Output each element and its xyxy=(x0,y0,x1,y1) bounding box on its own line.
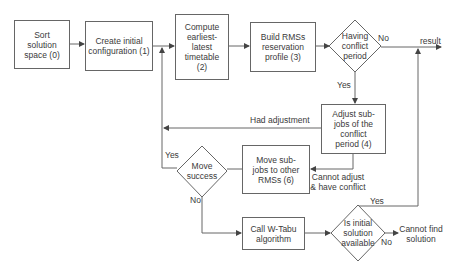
step-call-w-tabu: Call W-Tabu algorithm xyxy=(242,217,305,250)
step-move-sub-jobs: Move sub-jobs to other RMSs (6) xyxy=(242,145,310,194)
step-label: Build RMSs reservation profile (3) xyxy=(258,32,308,62)
edge-label-cannot-adjust: Cannot adjust & have conflict xyxy=(308,172,368,192)
step-label: Compute earliest-latest timetable (2) xyxy=(180,22,224,72)
step-sort-solution-space: Sort solution space (0) xyxy=(14,20,70,69)
step-create-initial-configuration: Create initial configuration (1) xyxy=(85,21,153,71)
arrow-cannot-adjust-to-move xyxy=(311,153,353,169)
step-label: Adjust sub-jobs of the conflict period (… xyxy=(328,109,380,149)
decision-having-conflict-label: Having conflict period xyxy=(337,32,373,60)
edge-label-initial-yes: Yes xyxy=(370,196,384,206)
decision-move-success-label: Move success xyxy=(185,160,219,182)
edge-label-move-no: No xyxy=(190,195,201,205)
step-label: Move sub-jobs to other RMSs (6) xyxy=(250,155,302,185)
edge-label-conflict-no: No xyxy=(378,33,389,43)
step-label: Call W-Tabu algorithm xyxy=(246,224,302,244)
edge-label-conflict-yes: Yes xyxy=(337,80,351,90)
step-adjust-sub-jobs: Adjust sub-jobs of the conflict period (… xyxy=(321,104,386,154)
decision-initial-available-label: Is initial solution available xyxy=(338,217,378,249)
edge-label-had-adjustment: Had adjustment xyxy=(250,115,310,125)
step-compute-timetable: Compute earliest-latest timetable (2) xyxy=(175,14,229,80)
edge-label-cannot-find: Cannot find solution xyxy=(396,224,446,244)
edge-label-move-yes: Yes xyxy=(165,150,179,160)
step-label: Create initial configuration (1) xyxy=(88,36,150,56)
step-build-reservation-profile: Build RMSs reservation profile (3) xyxy=(250,22,316,72)
edge-label-result: result xyxy=(420,36,441,46)
edge-label-initial-no: No xyxy=(381,237,392,247)
step-label: Sort solution space (0) xyxy=(22,30,62,60)
arrow-move-no-to-wtabu xyxy=(202,197,241,233)
